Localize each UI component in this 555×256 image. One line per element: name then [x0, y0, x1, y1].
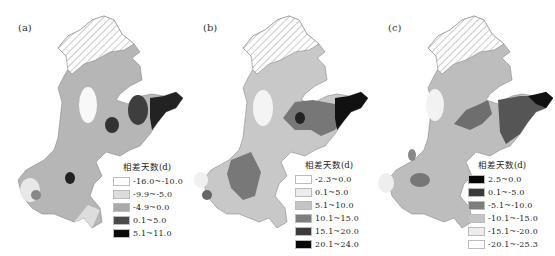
legend-label: 15.1~20.0	[315, 227, 359, 236]
legend-swatch	[468, 175, 485, 184]
legend-row: 5.1~11.0	[113, 227, 183, 240]
legend-row: 0.1~5.0	[113, 214, 183, 227]
legend-b: 相差天数(d) -2.3~0.0 0.1~5.0 5.1~10.0 10.1~1…	[295, 158, 359, 251]
map-panel-b: (b) 相差天数(d) -2.3~0.0 0.1~5.0 5.1~10.0 10…	[185, 0, 370, 256]
legend-swatch	[468, 240, 485, 249]
legend-a: 相差天数(d) -16.0~-10.0 -9.9~-5.0 -4.9~0.0 0…	[113, 160, 183, 240]
legend-row: 15.1~20.0	[295, 225, 359, 238]
legend-label: 2.5~0.0	[488, 175, 522, 184]
legend-label: 5.1~10.0	[315, 201, 354, 210]
map-panel-c: (c) 相差天数(d) 2.5~0.0 0.1~-5.0 -5.1~-10.0 …	[370, 0, 555, 256]
legend-row: 10.1~15.0	[295, 212, 359, 225]
legend-label: -2.3~0.0	[315, 175, 351, 184]
legend-label: -10.1~-15.0	[488, 214, 538, 223]
legend-label: 0.1~5.0	[133, 216, 167, 225]
legend-label: 0.1~-5.0	[488, 188, 524, 197]
legend-label: -5.1~-10.0	[488, 201, 533, 210]
legend-label: -20.1~-25.3	[488, 240, 538, 249]
panel-label-a: (a)	[18, 22, 32, 33]
legend-swatch	[295, 201, 312, 210]
legend-label: -15.1~-20.0	[488, 227, 538, 236]
legend-title: 相差天数(d)	[478, 158, 538, 170]
legend-row: 2.5~0.0	[468, 173, 538, 186]
legend-title: 相差天数(d)	[305, 158, 359, 170]
legend-label: 0.1~5.0	[315, 188, 349, 197]
legend-swatch	[295, 188, 312, 197]
map-panel-a: (a) 相差天数(d) -16.0~-10.0 -9.9~-5.0 -4.9~0…	[0, 0, 185, 256]
panel-label-b: (b)	[203, 22, 217, 33]
legend-swatch	[295, 175, 312, 184]
legend-row: -10.1~-15.0	[468, 212, 538, 225]
legend-swatch	[113, 203, 130, 212]
legend-row: -5.1~-10.0	[468, 199, 538, 212]
legend-label: -4.9~0.0	[133, 203, 169, 212]
panel-label-c: (c)	[388, 22, 401, 33]
legend-swatch	[295, 240, 312, 249]
legend-label: -9.9~-5.0	[133, 190, 172, 199]
legend-swatch	[113, 190, 130, 199]
legend-swatch	[113, 216, 130, 225]
legend-row: 20.1~24.0	[295, 238, 359, 251]
legend-row: -16.0~-10.0	[113, 175, 183, 188]
legend-label: -16.0~-10.0	[133, 177, 183, 186]
legend-label: 10.1~15.0	[315, 214, 359, 223]
legend-row: 0.1~5.0	[295, 186, 359, 199]
legend-row: -4.9~0.0	[113, 201, 183, 214]
legend-swatch	[468, 201, 485, 210]
legend-row: -20.1~-25.3	[468, 238, 538, 251]
legend-swatch	[468, 188, 485, 197]
legend-swatch	[295, 227, 312, 236]
legend-swatch	[113, 177, 130, 186]
legend-row: -15.1~-20.0	[468, 225, 538, 238]
legend-row: -2.3~0.0	[295, 173, 359, 186]
legend-swatch	[468, 214, 485, 223]
legend-label: 5.1~11.0	[133, 229, 172, 238]
legend-swatch	[468, 227, 485, 236]
legend-swatch	[113, 229, 130, 238]
legend-row: 5.1~10.0	[295, 199, 359, 212]
legend-title: 相差天数(d)	[123, 160, 183, 172]
legend-label: 20.1~24.0	[315, 240, 359, 249]
legend-row: -9.9~-5.0	[113, 188, 183, 201]
legend-swatch	[295, 214, 312, 223]
legend-c: 相差天数(d) 2.5~0.0 0.1~-5.0 -5.1~-10.0 -10.…	[468, 158, 538, 251]
legend-row: 0.1~-5.0	[468, 186, 538, 199]
